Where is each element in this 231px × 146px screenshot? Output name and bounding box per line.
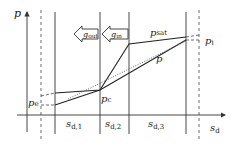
- p-label: p: [156, 53, 163, 64]
- segment-label-2: sd,2: [105, 118, 121, 131]
- y-axis-label: p: [14, 7, 21, 20]
- pc-label: pc: [101, 93, 111, 104]
- pressure-profile-diagram: p sd sd,1 sd,2 sd,3 gout gin psat p pe p…: [0, 0, 231, 146]
- segment-label-3: sd,3: [148, 118, 164, 131]
- pe-label: pe: [28, 97, 39, 108]
- pe-upper-dash: [41, 93, 55, 96]
- g-out-arrow: gout: [74, 26, 99, 42]
- segment-label-1: sd,1: [66, 118, 82, 131]
- svg-text:gin: gin: [111, 30, 122, 39]
- p-sat-label: psat: [150, 27, 167, 38]
- x-axis-label: sd: [210, 122, 220, 135]
- saturation-pressure-line: [55, 37, 186, 93]
- pi-upper-dash: [186, 35, 199, 37]
- g-in-arrow: gin: [102, 26, 128, 42]
- svg-text:gout: gout: [83, 30, 99, 39]
- pi-label: pi: [205, 35, 214, 47]
